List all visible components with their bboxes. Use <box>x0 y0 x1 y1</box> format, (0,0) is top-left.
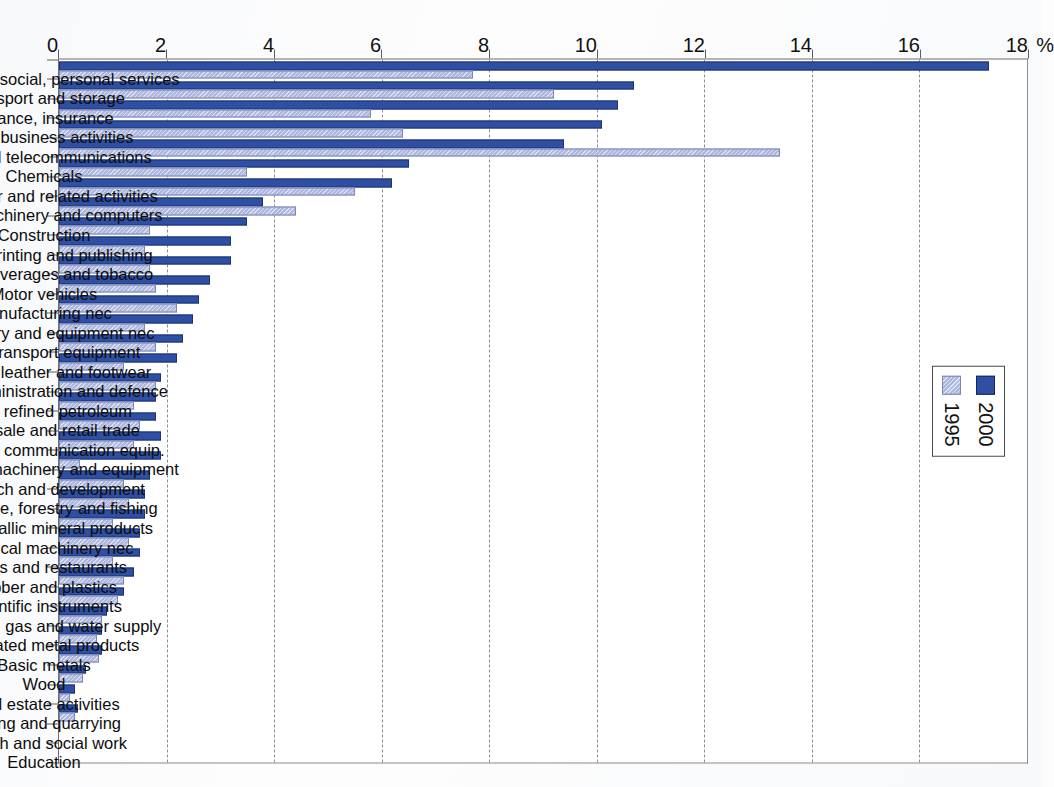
bar-group <box>59 664 1027 683</box>
bar-group <box>59 702 1027 721</box>
bar-1995 <box>59 167 247 176</box>
category-label-slot: Mining and quarrying <box>0 704 46 724</box>
bar-1995 <box>59 89 554 98</box>
value-tick-6 <box>381 49 382 58</box>
category-label-slot: Renting of machinery and equipment <box>0 450 46 470</box>
category-label-slot: Paper, printing and publishing <box>0 235 46 255</box>
bar-group <box>59 333 1027 352</box>
value-tick-10 <box>597 49 598 58</box>
value-tick-label-6: 6 <box>370 34 381 57</box>
chart-legend: 2000 1995 <box>932 365 1005 457</box>
category-label-slot: Radio, TV, communication equip. <box>0 430 46 450</box>
category-label-slot: Scientific instruments <box>0 586 46 606</box>
bar-group <box>59 430 1027 449</box>
category-label-slot: Rubber and plastics <box>0 567 46 587</box>
category-label-slot: Post and telecommunications <box>0 137 46 157</box>
bar-group <box>59 255 1027 274</box>
legend-label-2000: 2000 <box>974 402 997 447</box>
category-label-slot: Fabricated metal products <box>0 625 46 645</box>
category-label-slot: Machinery and equipment nec <box>0 313 46 333</box>
bar-group <box>59 410 1027 429</box>
category-label-slot: Electricity, gas and water supply <box>0 606 46 626</box>
bar-group <box>59 79 1027 98</box>
category-label-slot: Finance, insurance <box>0 98 46 118</box>
legend-label-1995: 1995 <box>940 402 963 447</box>
bar-2000 <box>59 139 565 148</box>
category-label-slot: Electrical machinery nec <box>0 528 46 548</box>
category-labels: Community, social, personal servicesTran… <box>0 58 46 763</box>
category-label-slot: Agriculture, forestry and fishing <box>0 489 46 509</box>
value-tick-label-12: 12 <box>682 34 704 57</box>
bar-group <box>59 683 1027 702</box>
bar-group <box>59 352 1027 371</box>
category-label-slot: Research and development <box>0 469 46 489</box>
gridline-18 <box>1027 59 1028 762</box>
legend-entry-1995: 1995 <box>940 375 963 447</box>
category-label-slot: Real estate activities <box>0 684 46 704</box>
value-tick-label-2: 2 <box>155 34 166 57</box>
bar-group <box>59 605 1027 624</box>
legend-entry-2000: 2000 <box>974 375 997 447</box>
bar-group <box>59 644 1027 663</box>
value-tick-14 <box>812 49 813 58</box>
value-tick-8 <box>489 49 490 58</box>
bar-group <box>59 469 1027 488</box>
bar-group <box>59 566 1027 585</box>
value-tick-16 <box>920 49 921 58</box>
bar-2000 <box>59 100 618 109</box>
value-tick-label-18: 18 <box>1006 34 1028 57</box>
value-tick-label-14: 14 <box>790 34 812 57</box>
category-label-slot: Education <box>0 743 46 763</box>
bar-group <box>59 586 1027 605</box>
category-label-slot: Textiles, leather and footwear <box>0 352 46 372</box>
bar-group <box>59 177 1027 196</box>
plot-area: 2000 1995 <box>58 58 1028 763</box>
bar-group <box>59 294 1027 313</box>
category-label-slot: Transport and storage <box>0 79 46 99</box>
bar-group <box>59 488 1027 507</box>
bar-2000 <box>59 120 602 129</box>
category-label-slot: Other business activities <box>0 118 46 138</box>
bar-group <box>59 372 1027 391</box>
value-tick-18 <box>1028 49 1029 58</box>
category-label-slot: Food, beverages and tobacco <box>0 254 46 274</box>
bar-group <box>59 391 1027 410</box>
bar-group <box>59 60 1027 79</box>
category-label-slot: Public administration and defence <box>0 372 46 392</box>
value-axis-unit: % <box>1036 34 1054 57</box>
category-label-slot: Basic metals <box>0 645 46 665</box>
bar-2000 <box>59 178 392 187</box>
category-label-slot: Wholesale and retail trade <box>0 411 46 431</box>
value-tick-label-4: 4 <box>262 34 273 57</box>
category-label-slot: Community, social, personal services <box>0 59 46 79</box>
bar-group <box>59 547 1027 566</box>
legend-swatch-1995 <box>942 375 961 394</box>
value-axis: 024681012141618% <box>58 0 1028 58</box>
value-tick-label-16: 16 <box>898 34 920 57</box>
bar-1995 <box>59 148 780 157</box>
bar-group <box>59 216 1027 235</box>
bar-group <box>59 196 1027 215</box>
bar-groups <box>59 59 1027 762</box>
bar-2000 <box>59 61 989 70</box>
bar-group <box>59 449 1027 468</box>
bar-group <box>59 99 1027 118</box>
bar-group <box>59 157 1027 176</box>
category-label-slot: Chemicals <box>0 157 46 177</box>
bar-group <box>59 118 1027 137</box>
category-label-slot: Motor vehicles <box>0 274 46 294</box>
value-tick-label-0: 0 <box>47 34 58 57</box>
category-label-slot: Manufacturing nec <box>0 293 46 313</box>
category-label-slot: Hotels and restaurants <box>0 547 46 567</box>
bar-group <box>59 625 1027 644</box>
category-label-slot: Computer and related activities <box>0 176 46 196</box>
value-tick-label-8: 8 <box>478 34 489 57</box>
category-label: Education <box>7 752 80 771</box>
bar-group <box>59 313 1027 332</box>
bar-group <box>59 138 1027 157</box>
category-label-slot: Coke, refined petroleum <box>0 391 46 411</box>
category-label-slot: Health and social work <box>0 723 46 743</box>
bar-group <box>59 527 1027 546</box>
bar-group <box>59 235 1027 254</box>
